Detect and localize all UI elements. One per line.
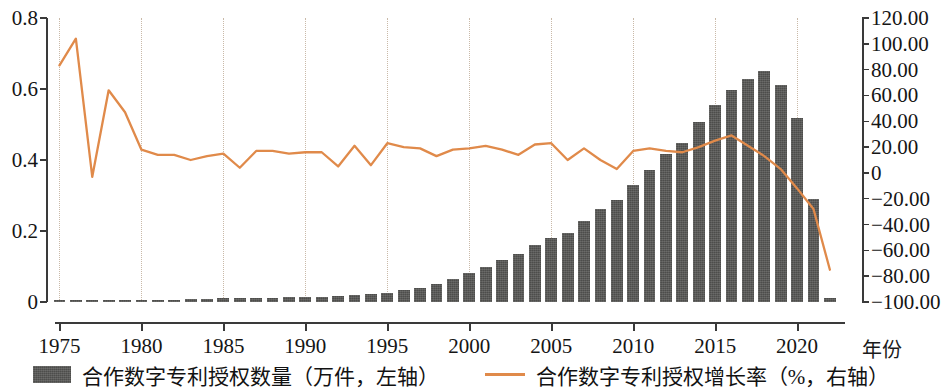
left-axis-tickmark [40, 17, 47, 19]
right-axis-tickmark [862, 250, 869, 252]
right-ytick-label: 40.00 [871, 109, 918, 134]
right-ytick-label: −20.00 [871, 186, 930, 211]
left-ytick-label: 0.6 [0, 77, 38, 102]
left-ytick-label: 0.2 [0, 219, 38, 244]
legend-label-line: 合作数字专利授权增长率（%，右轴） [536, 360, 890, 390]
left-axis-tickmark [40, 88, 47, 90]
legend-item-bar: 合作数字专利授权数量（万件，左轴） [33, 360, 439, 390]
right-axis-tickmark [862, 224, 869, 226]
x-axis-tick-label: 2015 [694, 334, 736, 359]
x-axis-tick-label: 1985 [202, 334, 244, 359]
right-axis-tickmark [862, 301, 869, 303]
x-axis-tickmark [469, 322, 471, 331]
left-axis-tickmark [40, 230, 47, 232]
x-axis-tick-label: 2020 [776, 334, 818, 359]
right-axis-tickmark [862, 146, 869, 148]
right-ytick-label: −80.00 [871, 264, 930, 289]
left-axis-tickmark [40, 159, 47, 161]
x-axis-tickmark [633, 322, 635, 331]
right-axis-tickmark [862, 275, 869, 277]
left-ytick-label: 0.4 [0, 148, 38, 173]
x-axis-tickmark [387, 322, 389, 331]
right-ytick-label: 80.00 [871, 57, 918, 82]
right-ytick-label: 120.00 [871, 6, 929, 31]
right-ytick-label: 0 [871, 160, 882, 185]
left-axis-tickmark [40, 301, 47, 303]
right-axis-spine [862, 18, 864, 302]
x-axis-tickmark [59, 322, 61, 331]
right-ytick-label: −100.00 [871, 290, 941, 315]
right-axis-tickmark [862, 198, 869, 200]
chart-legend: 合作数字专利授权数量（万件，左轴） 合作数字专利授权增长率（%，右轴） [0, 359, 922, 390]
right-ytick-label: 100.00 [871, 31, 929, 56]
left-ytick-label: 0 [0, 290, 38, 315]
line-swatch-icon [485, 373, 525, 376]
x-axis-tick-label: 1975 [38, 334, 80, 359]
right-axis-tickmark [862, 69, 869, 71]
x-axis-tick-label: 1980 [120, 334, 162, 359]
left-ytick-label: 0.8 [0, 6, 38, 31]
right-axis-tickmark [862, 17, 869, 19]
x-axis-tick-label: 2000 [448, 334, 490, 359]
legend-item-line: 合作数字专利授权增长率（%，右轴） [485, 360, 890, 390]
x-axis-tickmark [797, 322, 799, 331]
right-axis: 120.00100.0080.0060.0040.0020.000−20.00−… [862, 0, 922, 330]
right-ytick-label: −40.00 [871, 212, 930, 237]
right-ytick-label: 20.00 [871, 135, 918, 160]
right-axis-tickmark [862, 121, 869, 123]
x-axis-line [55, 322, 845, 324]
x-axis-tick-label: 1990 [284, 334, 326, 359]
x-axis-tickmark [223, 322, 225, 331]
right-axis-tickmark [862, 43, 869, 45]
line-series [48, 18, 843, 302]
x-axis-tick-label: 1995 [366, 334, 408, 359]
right-axis-tickmark [862, 95, 869, 97]
x-axis-tickmark [305, 322, 307, 331]
right-ytick-label: −60.00 [871, 238, 930, 263]
right-axis-tickmark [862, 172, 869, 174]
right-ytick-label: 60.00 [871, 83, 918, 108]
x-axis-tick-label: 2005 [530, 334, 572, 359]
x-axis-tickmark [141, 322, 143, 331]
x-axis-tickmark [715, 322, 717, 331]
x-axis-tick-label: 2010 [612, 334, 654, 359]
x-axis-tickmark [551, 322, 553, 331]
x-axis-ticklabels: 1975198019851990199520002005201020152020 [0, 334, 922, 360]
bar-swatch-icon [33, 366, 71, 383]
plot-area [48, 18, 843, 302]
legend-label-bar: 合作数字专利授权数量（万件，左轴） [82, 360, 439, 390]
